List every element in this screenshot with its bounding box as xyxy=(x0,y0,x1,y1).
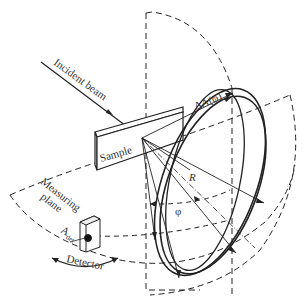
detector-box xyxy=(80,216,100,252)
label-detector: Detector xyxy=(66,252,106,272)
dashed-sphere-section xyxy=(10,12,296,295)
label-incident-beam: Incident beam xyxy=(52,56,110,103)
diagram-canvas: Incident beam Sample Measuring plane Det… xyxy=(0,0,306,303)
label-radius: R xyxy=(188,171,196,183)
label-a-det: Adet xyxy=(58,223,80,244)
label-phi: φ xyxy=(175,205,181,217)
